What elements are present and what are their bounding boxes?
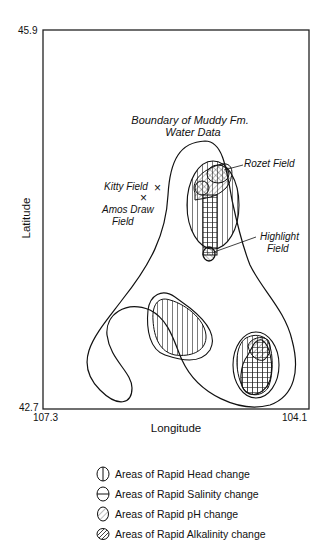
- amos-draw-field-label-1: Amos Draw: [101, 204, 154, 215]
- legend-label: Areas of Rapid Alkalinity change: [115, 528, 266, 540]
- y-max-label: 45.9: [18, 25, 38, 36]
- x-max-label: 104.1: [282, 412, 307, 423]
- y-axis-label: Latitude: [20, 198, 32, 239]
- highlight-field-label-1: Highlight: [260, 231, 300, 242]
- alkalinity-change-area-west: [195, 181, 209, 195]
- kitty-field-label: Kitty Field: [104, 181, 148, 192]
- amos-draw-field-marker: ×: [140, 191, 147, 205]
- vertical-hatch-icon: [96, 466, 110, 482]
- legend-item-alkalinity: Areas of Rapid Alkalinity change: [96, 524, 266, 541]
- horizontal-hatch-icon: [96, 486, 110, 502]
- legend-label: Areas of Rapid pH change: [115, 508, 238, 520]
- head-change-area-sw: [153, 299, 206, 355]
- legend-item-head: Areas of Rapid Head change: [96, 464, 266, 484]
- kitty-field-marker: ×: [154, 181, 161, 195]
- legend-item-salinity: Areas of Rapid Salinity change: [96, 484, 266, 504]
- map-figure: 45.9 42.7 107.3 104.1 Longitude Latitude…: [0, 0, 334, 541]
- boundary-label-line1: Boundary of Muddy Fm.: [131, 114, 248, 126]
- highlight-field-label-2: Field: [267, 243, 289, 254]
- legend-label: Areas of Rapid Salinity change: [115, 488, 259, 500]
- rozet-field-label: Rozet Field: [244, 158, 295, 169]
- salinity-change-area-stem: [203, 195, 217, 255]
- diagonal-hatch-icon: [96, 506, 110, 522]
- boundary-label-line2: Water Data: [165, 126, 220, 138]
- alkalinity-change-area-rozet: [207, 165, 229, 183]
- legend: Areas of Rapid Head change Areas of Rapi…: [96, 464, 266, 541]
- amos-draw-field-label-2: Field: [112, 216, 134, 227]
- alkalinity-change-area-highlight: [203, 247, 215, 261]
- x-axis-label: Longitude: [151, 422, 202, 434]
- diagonal-fine-hatch-icon: [96, 526, 110, 541]
- legend-label: Areas of Rapid Head change: [115, 468, 250, 480]
- x-min-label: 107.3: [33, 412, 58, 423]
- legend-item-ph: Areas of Rapid pH change: [96, 504, 266, 524]
